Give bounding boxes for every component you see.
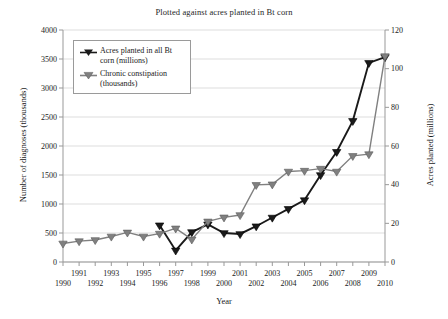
svg-text:120: 120 [391,26,403,35]
series-marker [365,152,373,159]
series-marker [349,119,357,126]
svg-text:1996: 1996 [152,279,168,288]
series-marker [236,213,244,220]
svg-text:2004: 2004 [280,279,296,288]
svg-text:1992: 1992 [87,279,103,288]
svg-text:1990: 1990 [55,279,71,288]
svg-text:1991: 1991 [71,269,87,278]
series-marker [268,182,276,189]
legend-item-constipation: Chronic constipation(thousands) [80,69,188,89]
series-marker [59,241,67,248]
svg-text:500: 500 [45,229,57,238]
legend-marker-constipation-icon [80,71,97,80]
series-marker [75,239,83,246]
chart-container: Plotted against acres planted in Bt corn… [0,0,448,319]
svg-text:100: 100 [391,64,403,73]
svg-text:3000: 3000 [41,84,57,93]
svg-text:2000: 2000 [41,142,57,151]
svg-text:4000: 4000 [41,26,57,35]
svg-text:2010: 2010 [377,279,393,288]
svg-text:40: 40 [391,180,399,189]
series-marker [91,238,99,245]
svg-text:1995: 1995 [136,269,152,278]
svg-text:0: 0 [391,258,395,267]
svg-text:2003: 2003 [264,269,280,278]
svg-text:2001: 2001 [232,269,248,278]
legend-marker-acres-icon [80,48,97,57]
series-marker [139,234,147,241]
series-marker [188,237,196,244]
legend-label-acres: Acres planted in all Btcorn (millions) [100,46,188,66]
series-marker [300,168,308,175]
series-marker [365,61,373,68]
legend-item-acres: Acres planted in all Btcorn (millions) [80,46,188,66]
svg-text:1999: 1999 [200,269,216,278]
svg-text:2006: 2006 [313,279,329,288]
svg-text:1998: 1998 [184,279,200,288]
svg-text:0: 0 [53,258,57,267]
chart-legend: Acres planted in all Btcorn (millions) C… [73,40,191,94]
svg-text:2008: 2008 [345,279,361,288]
svg-text:80: 80 [391,103,399,112]
svg-text:2002: 2002 [248,279,264,288]
plot-area: 0500100015002000250030003500400002040608… [0,0,448,319]
svg-text:20: 20 [391,219,399,228]
series-marker [172,248,180,255]
legend-label-constipation: Chronic constipation(thousands) [100,69,188,89]
svg-text:1997: 1997 [168,269,184,278]
svg-text:2007: 2007 [329,269,345,278]
svg-text:3500: 3500 [41,55,57,64]
svg-text:1000: 1000 [41,200,57,209]
series-marker [236,232,244,239]
svg-text:2500: 2500 [41,113,57,122]
svg-text:1500: 1500 [41,171,57,180]
svg-text:2000: 2000 [216,279,232,288]
series-marker [220,231,228,238]
svg-text:2009: 2009 [361,269,377,278]
svg-text:1993: 1993 [103,269,119,278]
series-marker [252,183,260,190]
svg-text:60: 60 [391,142,399,151]
svg-text:1994: 1994 [119,279,135,288]
svg-text:2005: 2005 [297,269,313,278]
